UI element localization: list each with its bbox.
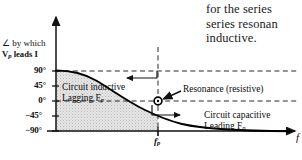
x-axis-label: f	[296, 131, 302, 143]
y-tick-label-0: 0°	[12, 95, 46, 105]
body-text-line-2: series resonan	[206, 17, 302, 32]
phase-angle-figure: ∠ by which Vp leads I 90° 45° 0° −45° −9…	[0, 0, 302, 160]
x-tick-label-fp: fp	[154, 136, 160, 146]
y-tick-label-90: 90°	[12, 65, 46, 75]
annotation-resonance: Resonance (resistive)	[183, 84, 263, 95]
y-axis-caption-line1: ∠ by which	[2, 38, 46, 48]
body-text-line-1: for the series	[206, 2, 302, 17]
annotation-circuit-capacitive: Circuit capacitive	[204, 110, 270, 121]
body-text-line-3: inductive.	[206, 31, 302, 46]
annotation-circuit-inductive: Circuit inductive	[62, 82, 125, 93]
y-tick-label-neg90: −90°	[8, 125, 42, 135]
y-tick-label-45: 45°	[12, 80, 46, 90]
resonance-point-center	[157, 100, 159, 102]
body-text-block: series resonant circuit for the series s…	[206, 0, 302, 46]
y-axis-caption: ∠ by which Vp leads I	[2, 38, 64, 62]
annotation-leading-fp: Leading Fp	[204, 121, 246, 134]
x-tick-label-fp-sub: p	[157, 139, 160, 146]
annotation-leading-fp-text: Leading F	[204, 121, 242, 131]
inductive-direction-arrow	[127, 71, 157, 78]
y-tick-label-neg45: −45°	[8, 110, 42, 120]
annotation-lagging-fp-sub: p	[101, 96, 104, 103]
y-axis-caption-leads-i: leads I	[12, 49, 38, 59]
annotation-lagging-fp-text: Lagging F	[62, 93, 101, 103]
body-text-line-clipped: series resonant circuit	[206, 0, 302, 2]
resonance-callout-arrow	[164, 91, 182, 99]
annotation-leading-fp-sub: p	[242, 124, 245, 131]
annotation-lagging-fp: Lagging Fp	[62, 93, 104, 106]
capacitive-direction-arrow	[152, 105, 180, 115]
